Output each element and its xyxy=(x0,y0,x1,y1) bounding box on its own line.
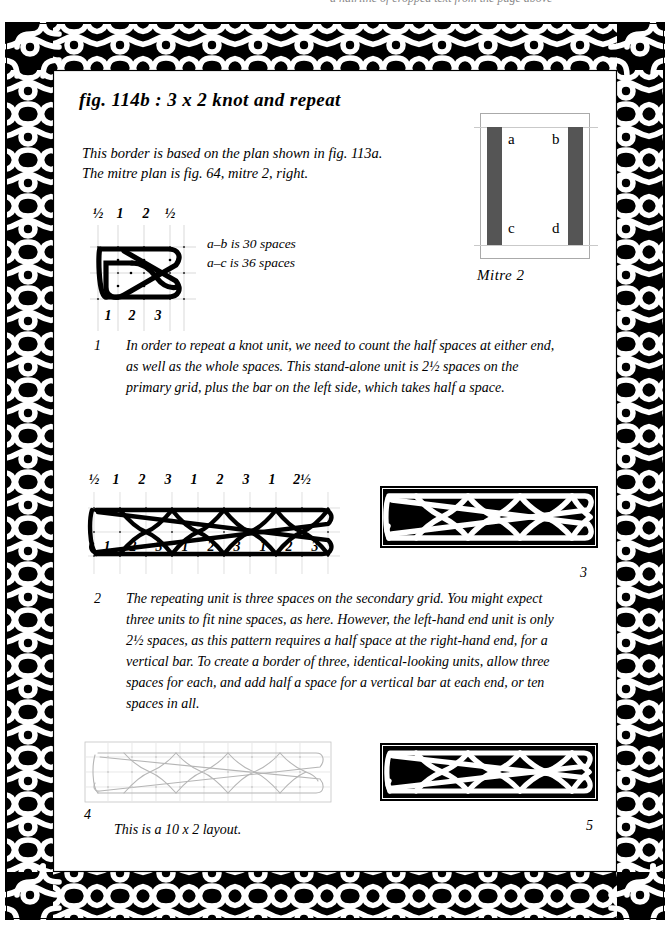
fig2-top-label-5: 2 xyxy=(217,472,224,488)
paragraph-2-number: 2 xyxy=(94,588,101,609)
mitre-label-d: d xyxy=(552,220,560,237)
fig1-top-label-0: ½ xyxy=(93,206,104,222)
fig2-top-label-1: 1 xyxy=(113,472,120,488)
page-content-panel: fig. 114b : 3 x 2 knot and repeat This b… xyxy=(62,78,614,864)
page-title: fig. 114b : 3 x 2 knot and repeat xyxy=(79,89,341,111)
bottom-caption: This is a 10 x 2 layout. xyxy=(114,822,241,838)
border-corner-br xyxy=(611,866,665,920)
fig1-bottom-label-2: 3 xyxy=(155,308,162,324)
fig2-bottom-label-0: 1 xyxy=(104,539,111,555)
fig1-top-label-3: ½ xyxy=(165,206,176,222)
paragraph-1: 1 In order to repeat a knot unit, we nee… xyxy=(126,335,556,398)
fig2-top-label-2: 2 xyxy=(139,472,146,488)
fig2-bottom-label-5: 3 xyxy=(234,539,241,555)
figure-2-bottom-labels: 1 2 3 1 2 3 1 2 3 xyxy=(84,539,346,555)
fig2-bottom-label-4: 2 xyxy=(208,539,215,555)
figure-2-top-labels: ½ 1 2 3 1 2 3 1 2½ xyxy=(84,472,346,488)
fig2-top-label-0: ½ xyxy=(89,472,100,488)
fig2-bottom-label-1: 2 xyxy=(130,539,137,555)
border-band-right xyxy=(617,70,663,872)
mitre-caption: Mitre 2 xyxy=(477,267,525,284)
fig2-bottom-label-8: 3 xyxy=(312,539,319,555)
fig2-bottom-label-7: 2 xyxy=(286,539,293,555)
paragraph-1-number: 1 xyxy=(94,335,101,356)
fig2-top-label-7: 1 xyxy=(269,472,276,488)
mitre-bar-right xyxy=(568,127,583,245)
border-band-top xyxy=(7,24,663,70)
fig1-top-label-1: 1 xyxy=(117,206,124,222)
figure-1-bottom-labels: 1 2 3 xyxy=(84,308,204,324)
fig1-bottom-label-1: 2 xyxy=(129,308,136,324)
figure-4-number: 4 xyxy=(84,807,91,823)
paragraph-2: 2 The repeating unit is three spaces on … xyxy=(126,588,574,714)
border-corner-bl xyxy=(5,866,59,920)
fig2-bottom-label-6: 1 xyxy=(260,539,267,555)
border-band-bottom xyxy=(7,872,663,918)
paragraph-1-text: In order to repeat a knot unit, we need … xyxy=(126,338,554,395)
fig1-bottom-label-0: 1 xyxy=(105,308,112,324)
intro-text: This border is based on the plan shown i… xyxy=(82,143,383,183)
figure-3-finished-border xyxy=(380,486,598,548)
border-band-left xyxy=(7,70,53,872)
mitre-label-b: b xyxy=(552,131,560,148)
figure-5-number: 5 xyxy=(586,818,593,834)
fig1-top-label-2: 2 xyxy=(143,206,150,222)
mitre-label-c: c xyxy=(508,220,515,237)
figure-1-top-labels: ½ 1 2 ½ xyxy=(84,206,204,222)
figure-4-line-plan xyxy=(84,741,332,803)
fig2-bottom-label-3: 1 xyxy=(182,539,189,555)
fig2-bottom-label-2: 3 xyxy=(156,539,163,555)
page-bleed-text: a hairline of cropped text from the page… xyxy=(0,0,670,20)
fig2-top-label-8: 2½ xyxy=(293,472,311,488)
spaces-note: a–b is 30 spaces a–c is 36 spaces xyxy=(207,234,296,272)
border-corner-tl xyxy=(5,22,59,76)
figure-2-repeat-strip xyxy=(84,490,346,576)
intro-line-2: The mitre plan is fig. 64, mitre 2, righ… xyxy=(82,163,383,183)
spaces-note-line-1: a–b is 30 spaces xyxy=(207,234,296,253)
figure-4-grid xyxy=(86,743,330,801)
intro-line-1: This border is based on the plan shown i… xyxy=(82,143,383,163)
fig2-top-label-4: 1 xyxy=(191,472,198,488)
mitre-guide-line-bottom xyxy=(474,245,598,246)
spaces-note-line-2: a–c is 36 spaces xyxy=(207,253,296,272)
fig2-top-label-3: 3 xyxy=(165,472,172,488)
mitre-label-a: a xyxy=(508,131,515,148)
fig2-top-label-6: 3 xyxy=(243,472,250,488)
figure-5-finished-border xyxy=(380,743,598,801)
mitre-bar-left xyxy=(487,127,502,245)
bleed-text-line: a hairline of cropped text from the page… xyxy=(330,0,552,6)
figure-3-number: 3 xyxy=(580,565,587,581)
paragraph-2-text: The repeating unit is three spaces on th… xyxy=(126,591,554,711)
mitre-plan-diagram: a b c d xyxy=(480,113,592,261)
border-corner-tr xyxy=(611,22,665,76)
